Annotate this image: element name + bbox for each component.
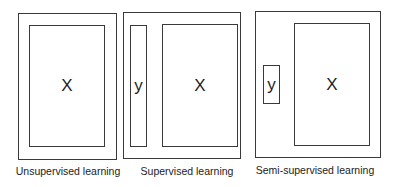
unsupervised-x-symbol: X	[61, 76, 72, 96]
unsupervised-label: Unsupervised learning	[8, 165, 128, 177]
semi-supervised-x-symbol: X	[326, 75, 337, 95]
unsupervised-x-box: X	[29, 25, 105, 147]
supervised-x-symbol: X	[194, 76, 205, 96]
supervised-y-box: y	[130, 25, 147, 147]
semi-supervised-y-symbol: y	[267, 75, 276, 95]
supervised-label: Supervised learning	[128, 165, 246, 177]
supervised-x-box: X	[162, 24, 238, 147]
semi-supervised-y-box: y	[263, 65, 280, 104]
semi-supervised-label: Semi-supervised learning	[254, 164, 376, 176]
semi-supervised-x-box: X	[294, 23, 370, 146]
supervised-y-symbol: y	[134, 76, 143, 96]
